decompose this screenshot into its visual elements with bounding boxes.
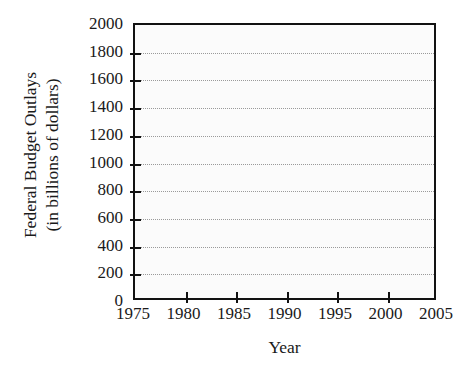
y-tick-1600 — [130, 80, 141, 82]
y-axis-title: Federal Budget Outlays (in billions of d… — [18, 20, 64, 290]
y-tick-1000 — [130, 164, 141, 166]
x-tick-1985 — [236, 292, 238, 303]
y-tick-label: 1000 — [61, 154, 123, 171]
y-axis-title-line-2: (in billions of dollars) — [41, 78, 63, 231]
gridline-1000 — [135, 164, 434, 165]
x-tick-label: 1985 — [206, 305, 262, 323]
x-tick-1980 — [186, 292, 188, 303]
x-tick-label: 1980 — [156, 305, 212, 323]
gridline-1400 — [135, 108, 434, 109]
x-axis-title: Year — [133, 337, 436, 357]
gridline-200 — [135, 274, 434, 275]
gridline-1600 — [135, 80, 434, 81]
y-tick-label: 1600 — [61, 70, 123, 87]
gridline-800 — [135, 191, 434, 192]
x-tick-2000 — [388, 292, 390, 303]
y-tick-1200 — [130, 136, 141, 138]
x-axis-tick-labels: 1975 1980 1985 1990 1995 2000 2005 — [133, 305, 436, 327]
gridline-1200 — [135, 136, 434, 137]
x-tick-1995 — [337, 292, 339, 303]
y-tick-label: 600 — [61, 209, 123, 226]
y-tick-600 — [130, 219, 141, 221]
y-tick-1400 — [130, 108, 141, 110]
x-tick-1990 — [287, 292, 289, 303]
x-tick-label: 1975 — [105, 305, 161, 323]
gridline-1800 — [135, 53, 434, 54]
y-tick-200 — [130, 274, 141, 276]
plot-area — [133, 23, 436, 300]
y-tick-label: 1400 — [61, 98, 123, 115]
chart-figure: 2000 1800 1600 1400 1200 1000 800 600 40… — [0, 0, 473, 379]
y-tick-label: 1800 — [61, 43, 123, 60]
y-axis-tick-labels: 2000 1800 1600 1400 1200 1000 800 600 40… — [61, 23, 123, 300]
gridline-600 — [135, 219, 434, 220]
y-tick-400 — [130, 247, 141, 249]
y-tick-label: 2000 — [61, 15, 123, 32]
x-tick-label: 1990 — [257, 305, 313, 323]
y-axis-title-line-1: Federal Budget Outlays — [19, 72, 41, 238]
x-tick-label: 2000 — [358, 305, 414, 323]
y-tick-label: 1200 — [61, 126, 123, 143]
gridline-400 — [135, 247, 434, 248]
y-tick-label: 200 — [61, 264, 123, 281]
x-tick-label: 1995 — [307, 305, 363, 323]
y-tick-label: 800 — [61, 181, 123, 198]
y-tick-800 — [130, 191, 141, 193]
x-tick-label: 2005 — [408, 305, 464, 323]
y-tick-label: 400 — [61, 237, 123, 254]
y-tick-1800 — [130, 53, 141, 55]
